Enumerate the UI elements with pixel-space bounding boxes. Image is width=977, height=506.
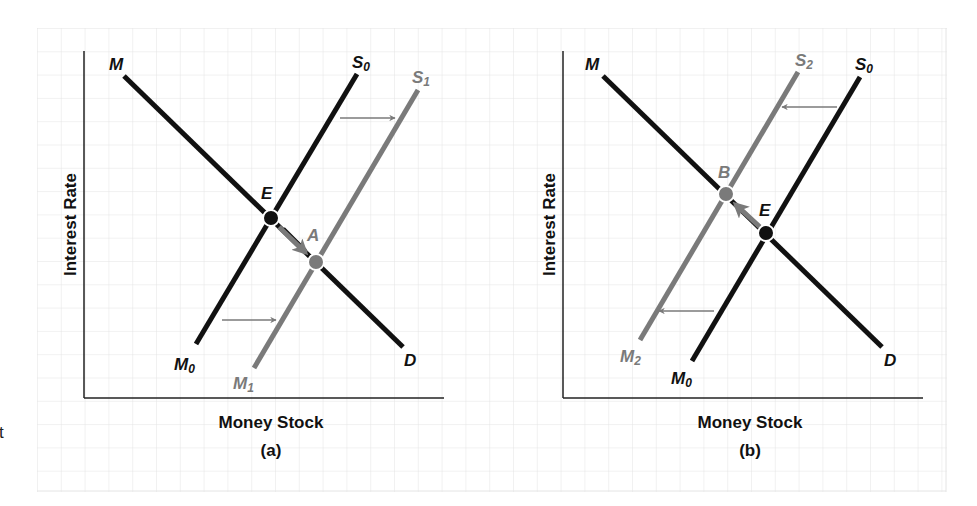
panel-caption-b: (b) [739,441,761,460]
label-point-e-a: E [261,184,273,203]
y-axis-label-b: Interest Rate [540,173,559,276]
equilibrium-point-b [718,186,734,202]
cropped-text-fragment: t [0,423,4,442]
equilibrium-point-e-b [758,225,774,241]
y-axis-label-a: Interest Rate [61,173,80,276]
x-axis-label-a: Money Stock [219,413,324,432]
label-d-b: D [884,351,896,370]
equilibrium-point-e-a [263,210,279,226]
panel-caption-a: (a) [261,441,282,460]
equilibrium-point-a [308,254,324,270]
x-axis-label-b: Money Stock [698,413,803,432]
label-d-a: D [404,351,416,370]
label-point-e-b: E [759,201,771,220]
label-point-b: B [718,163,730,182]
label-m-a: M [109,55,124,74]
label-m-b: M [585,55,600,74]
background-grid [37,28,947,492]
label-point-a: A [306,226,319,245]
money-market-diagram: t Interest Rate Money Stock (a) M S0 S1 … [0,0,977,506]
